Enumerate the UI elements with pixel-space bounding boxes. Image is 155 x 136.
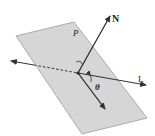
label-plane-p: P xyxy=(72,28,79,38)
label-line-l: L xyxy=(138,74,144,84)
intersection-point xyxy=(76,71,79,74)
label-angle-theta: θ xyxy=(95,82,100,92)
label-normal-n: N xyxy=(112,13,120,24)
line-l-left-segment xyxy=(11,61,34,65)
diagram-canvas: P N L θ xyxy=(0,0,155,136)
